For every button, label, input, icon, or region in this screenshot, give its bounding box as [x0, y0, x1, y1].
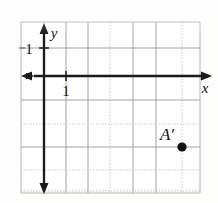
graph-figure: 1 1 y x A′	[0, 0, 218, 203]
y-tick-label-1: 1	[25, 41, 33, 57]
point-a-prime-marker[interactable]	[177, 142, 186, 151]
point-a-prime-label: A′	[159, 125, 174, 144]
coordinate-plane-svg: 1 1 y x A′	[0, 0, 218, 203]
x-tick-label-1: 1	[62, 83, 70, 99]
y-axis-label: y	[49, 25, 58, 41]
x-axis-label: x	[201, 80, 209, 96]
